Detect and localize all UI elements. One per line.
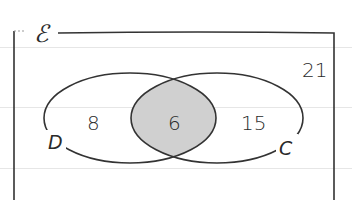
- set-c-label: C: [279, 137, 292, 159]
- intersection-region-value: 6: [168, 111, 181, 135]
- set-d-label: D: [48, 131, 63, 153]
- neither-region-value: 21: [302, 58, 327, 82]
- universal-set-symbol: ℰ: [34, 20, 49, 48]
- c-only-region-value: 15: [241, 111, 266, 135]
- venn-diagram: [0, 0, 352, 200]
- d-only-region-value: 8: [87, 111, 100, 135]
